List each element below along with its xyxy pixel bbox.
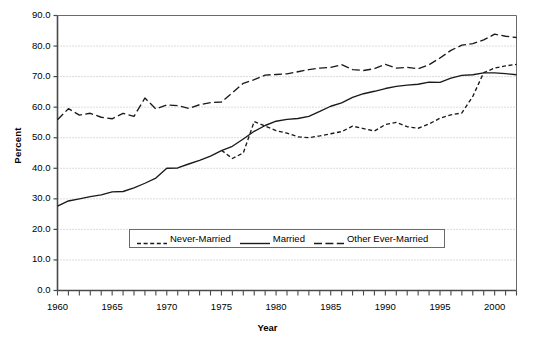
series-line-married xyxy=(58,73,517,206)
chart-legend: Never-Married Married Other Ever-Married xyxy=(129,229,445,248)
y-tick-label: 40.0 xyxy=(0,162,51,173)
legend-item-married: Married xyxy=(240,233,314,244)
series-line-never-married xyxy=(221,64,516,158)
x-tick-label: 1960 xyxy=(28,301,88,312)
x-tick-label: 1965 xyxy=(82,301,142,312)
legend-swatch-married xyxy=(240,234,270,243)
line-chart: Percent Year 0.010.020.030.040.050.060.0… xyxy=(0,0,535,341)
chart-canvas xyxy=(0,0,535,341)
y-tick-label: 30.0 xyxy=(0,192,51,203)
legend-swatch-other-ever-married xyxy=(314,234,344,243)
legend-label-married: Married xyxy=(270,233,314,244)
x-tick-label: 2000 xyxy=(465,301,525,312)
y-tick-label: 80.0 xyxy=(0,40,51,51)
y-tick-label: 0.0 xyxy=(0,284,51,295)
y-tick-label: 60.0 xyxy=(0,101,51,112)
legend-label-never-married: Never-Married xyxy=(167,233,240,244)
legend-swatch-never-married xyxy=(137,234,167,243)
y-tick-label: 20.0 xyxy=(0,223,51,234)
x-tick-label: 1970 xyxy=(137,301,197,312)
x-tick-label: 1985 xyxy=(301,301,361,312)
x-tick-label: 1995 xyxy=(410,301,470,312)
y-tick-label: 70.0 xyxy=(0,70,51,81)
x-tick-label: 1980 xyxy=(246,301,306,312)
x-tick-label: 1975 xyxy=(191,301,251,312)
legend-item-other-ever-married: Other Ever-Married xyxy=(314,233,437,244)
y-tick-label: 10.0 xyxy=(0,253,51,264)
x-axis-title: Year xyxy=(0,322,535,333)
legend-label-other-ever-married: Other Ever-Married xyxy=(344,233,437,244)
y-tick-label: 90.0 xyxy=(0,9,51,20)
x-tick-label: 1990 xyxy=(355,301,415,312)
legend-item-never-married: Never-Married xyxy=(137,233,240,244)
y-tick-label: 50.0 xyxy=(0,131,51,142)
